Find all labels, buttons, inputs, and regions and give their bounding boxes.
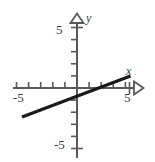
y-axis-arrowhead	[71, 14, 84, 24]
x-axis-label-negative-five: -5	[13, 91, 24, 104]
y-axis-label-positive-five: 5	[56, 23, 63, 36]
y-axis-name: y	[86, 12, 91, 24]
coordinate-plane-figure: 5 -5 -5 5 y x	[0, 0, 155, 162]
graph-svg	[0, 0, 155, 162]
x-axis-label-positive-five: 5	[124, 91, 131, 104]
x-axis-name: x	[126, 65, 131, 77]
y-axis-label-negative-five: -5	[54, 138, 65, 151]
x-axis-arrowhead	[134, 82, 144, 95]
